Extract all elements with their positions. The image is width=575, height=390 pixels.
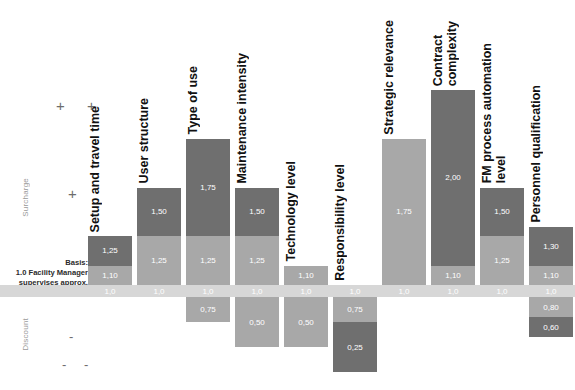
bar-segment-above[interactable]: 1,25 bbox=[235, 236, 279, 285]
bar-segment-below[interactable]: 0,75 bbox=[333, 297, 377, 322]
bar-segment-above[interactable]: 1,25 bbox=[186, 236, 230, 285]
baseline-value-cell: 1,0 bbox=[186, 285, 230, 297]
bar-segment-above[interactable]: 1,50 bbox=[137, 188, 181, 237]
category-label: FM process automation level bbox=[480, 43, 508, 183]
plot-area: 1,251,101,0Setup and travel time1,501,25… bbox=[88, 0, 575, 390]
discount-single-minus-icon: - bbox=[69, 330, 73, 343]
bar-segment-above[interactable]: 1,75 bbox=[382, 139, 426, 285]
bar-segment-below[interactable]: 0,50 bbox=[235, 297, 279, 347]
baseline-value-cell: 1,0 bbox=[480, 285, 524, 297]
bar-segment-above[interactable]: 2,00 bbox=[431, 90, 475, 266]
bar-column[interactable]: 1,751,0Strategic relevance bbox=[382, 0, 426, 390]
bar-segment-below[interactable]: 0,75 bbox=[186, 297, 230, 322]
baseline-value-cell: 1,0 bbox=[88, 285, 132, 297]
bar-column[interactable]: 1,00,750,25Responsibility level bbox=[333, 0, 377, 390]
baseline-value-cell: 1,0 bbox=[284, 285, 328, 297]
baseline-value-cell: 1,0 bbox=[137, 285, 181, 297]
baseline-value-cell: 1,0 bbox=[235, 285, 279, 297]
basis-note-line-1: Basis: bbox=[0, 258, 88, 268]
bar-segment-above[interactable]: 1,50 bbox=[480, 188, 524, 237]
category-label: Strategic relevance bbox=[382, 20, 396, 135]
bar-column[interactable]: 1,501,251,0FM process automation level bbox=[480, 0, 524, 390]
surcharge-axis-label: Surcharge bbox=[21, 178, 30, 217]
bar-segment-below[interactable]: 0,50 bbox=[284, 297, 328, 347]
bar-segment-above[interactable]: 1,25 bbox=[88, 236, 132, 265]
category-label: Contract complexity bbox=[431, 21, 459, 86]
bar-column[interactable]: 1,301,101,00,800,60Personnel qualificati… bbox=[529, 0, 573, 390]
factor-chart: Surcharge Discount + + + - - - Basis: 1.… bbox=[0, 0, 575, 390]
bar-segment-above[interactable]: 1,30 bbox=[529, 227, 573, 266]
bar-segment-above[interactable]: 1,25 bbox=[480, 236, 524, 285]
bar-column[interactable]: 1,501,251,0User structure bbox=[137, 0, 181, 390]
bar-segment-above[interactable]: 1,25 bbox=[137, 236, 181, 285]
category-label: User structure bbox=[137, 98, 151, 183]
bar-column[interactable]: 1,251,101,0Setup and travel time bbox=[88, 0, 132, 390]
surcharge-single-plus-icon: + bbox=[68, 186, 77, 201]
baseline-value-cell: 1,0 bbox=[431, 285, 475, 297]
baseline-value-cell: 1,0 bbox=[529, 285, 573, 297]
bar-column[interactable]: 2,001,101,0Contract complexity bbox=[431, 0, 475, 390]
bar-segment-below[interactable]: 0,80 bbox=[529, 297, 573, 317]
category-label: Setup and travel time bbox=[88, 106, 102, 232]
bar-segment-below[interactable]: 0,25 bbox=[333, 322, 377, 372]
baseline-value-cell: 1,0 bbox=[333, 285, 377, 297]
baseline-value-cell: 1,0 bbox=[382, 285, 426, 297]
bar-column[interactable]: 1,501,251,00,50Maintenance intensity bbox=[235, 0, 279, 390]
bar-segment-above[interactable]: 1,50 bbox=[235, 188, 279, 237]
category-label: Type of use bbox=[186, 66, 200, 135]
basis-note-line-2: 1.0 Facility Manager bbox=[0, 268, 88, 278]
bar-segment-above[interactable]: 1,10 bbox=[431, 266, 475, 286]
bar-segment-above[interactable]: 1,75 bbox=[186, 139, 230, 237]
bar-column[interactable]: 1,101,00,50Technology level bbox=[284, 0, 328, 390]
category-label: Personnel qualification bbox=[529, 85, 543, 223]
bar-segment-below[interactable]: 0,60 bbox=[529, 317, 573, 337]
bar-segment-above[interactable]: 1,10 bbox=[88, 266, 132, 286]
bar-segment-above[interactable]: 1,10 bbox=[529, 266, 573, 286]
category-label: Maintenance intensity bbox=[235, 53, 249, 184]
bar-column[interactable]: 1,751,251,00,75Type of use bbox=[186, 0, 230, 390]
bar-segment-above[interactable]: 1,10 bbox=[284, 266, 328, 286]
category-label: Technology level bbox=[284, 161, 298, 262]
discount-axis-label: Discount bbox=[21, 318, 30, 351]
category-label: Responsibility level bbox=[333, 164, 347, 281]
